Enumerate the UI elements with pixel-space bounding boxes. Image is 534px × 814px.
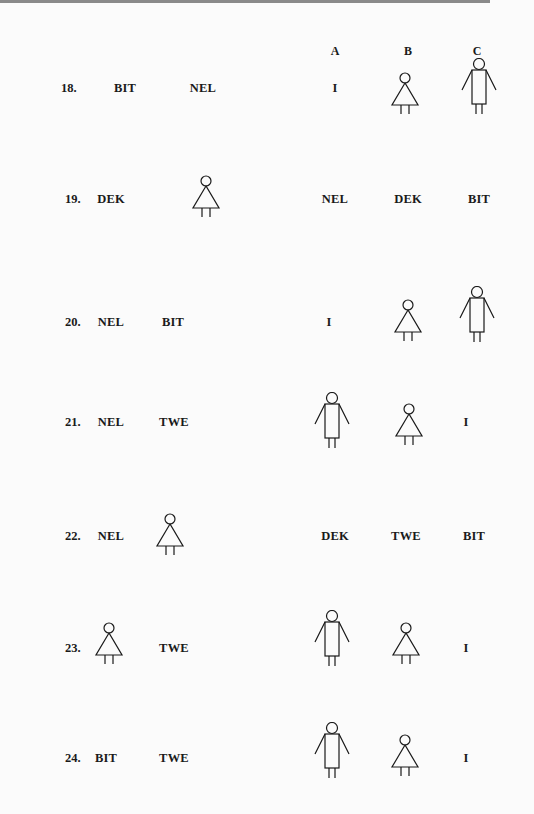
female-figure-icon <box>393 299 423 343</box>
option-a[interactable]: I <box>326 315 331 330</box>
male-figure-icon <box>457 286 497 344</box>
female-figure-icon <box>390 72 420 116</box>
female-figure-icon <box>94 622 124 666</box>
option-a[interactable]: NEL <box>322 192 348 207</box>
option-a[interactable] <box>312 610 352 668</box>
male-figure-icon <box>459 58 499 116</box>
prompt-1: DEK <box>97 192 125 207</box>
question-number: 23. <box>65 641 81 656</box>
option-a[interactable] <box>312 722 352 780</box>
option-b[interactable] <box>393 299 423 343</box>
option-b[interactable] <box>390 72 420 116</box>
prompt-2: TWE <box>159 415 189 430</box>
option-b[interactable] <box>391 622 421 666</box>
option-b[interactable]: TWE <box>391 529 421 544</box>
option-c[interactable]: I <box>463 415 468 430</box>
option-c[interactable] <box>459 58 499 116</box>
column-header-b: B <box>404 44 412 59</box>
option-c[interactable] <box>457 286 497 344</box>
female-figure-icon <box>391 622 421 666</box>
option-b[interactable] <box>390 734 420 778</box>
option-c[interactable]: BIT <box>468 192 490 207</box>
prompt-2: BIT <box>162 315 184 330</box>
prompt-1: BIT <box>114 81 136 96</box>
female-figure-icon <box>155 513 185 557</box>
prompt-2: TWE <box>159 641 189 656</box>
option-b[interactable]: DEK <box>394 192 422 207</box>
question-number: 21. <box>65 415 81 430</box>
option-c[interactable]: BIT <box>463 529 485 544</box>
prompt-1: NEL <box>98 529 124 544</box>
question-number: 19. <box>65 192 81 207</box>
prompt-1 <box>94 622 124 666</box>
option-a[interactable] <box>312 392 352 450</box>
column-header-c: C <box>473 44 482 59</box>
prompt-1: BIT <box>95 751 117 766</box>
female-figure-icon <box>390 734 420 778</box>
question-number: 24. <box>65 751 81 766</box>
prompt-1: NEL <box>98 415 124 430</box>
male-figure-icon <box>312 610 352 668</box>
column-header-a: A <box>331 44 340 59</box>
top-rule <box>0 0 490 3</box>
prompt-2 <box>155 513 185 557</box>
question-number: 22. <box>65 529 81 544</box>
option-a[interactable]: I <box>332 81 337 96</box>
option-a[interactable]: DEK <box>321 529 349 544</box>
female-figure-icon <box>191 175 221 219</box>
male-figure-icon <box>312 392 352 450</box>
female-figure-icon <box>394 403 424 447</box>
prompt-2: NEL <box>190 81 216 96</box>
option-c[interactable]: I <box>463 641 468 656</box>
prompt-1: NEL <box>98 315 124 330</box>
question-number: 18. <box>61 81 77 96</box>
prompt-2: TWE <box>159 751 189 766</box>
male-figure-icon <box>312 722 352 780</box>
prompt-2 <box>191 175 221 219</box>
option-b[interactable] <box>394 403 424 447</box>
question-number: 20. <box>65 315 81 330</box>
option-c[interactable]: I <box>463 751 468 766</box>
